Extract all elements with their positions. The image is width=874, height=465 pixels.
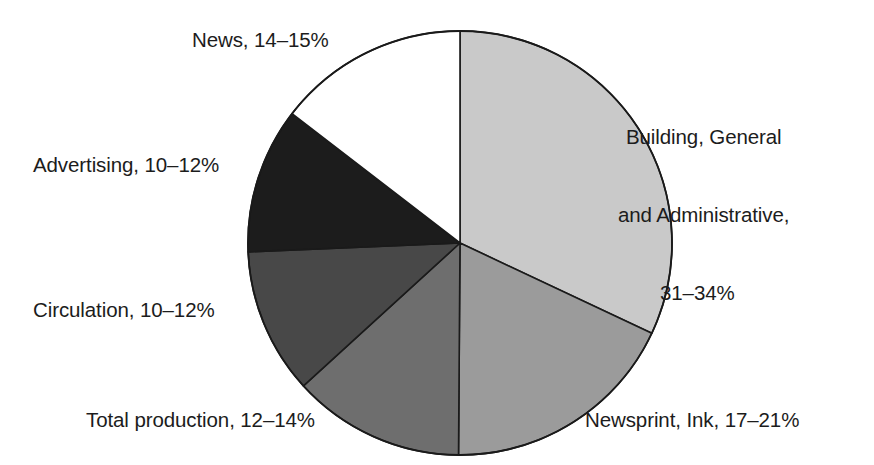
pie-label-newsprint-ink: Newsprint, Ink, 17–21% xyxy=(585,407,799,433)
pie-label-news: News, 14–15% xyxy=(192,27,329,53)
pie-chart-figure: News, 14–15% Building, General and Admin… xyxy=(0,0,874,465)
pie-label-building-general-administrative: Building, General and Administrative, 31… xyxy=(618,72,789,358)
pie-slice-group xyxy=(248,31,672,455)
pie-label-building-line1: Building, General xyxy=(626,124,789,150)
pie-label-advertising: Advertising, 10–12% xyxy=(33,152,219,178)
pie-label-circulation: Circulation, 10–12% xyxy=(33,297,215,323)
pie-label-building-line2: and Administrative, xyxy=(618,202,789,228)
pie-label-total-production: Total production, 12–14% xyxy=(86,407,315,433)
pie-label-building-line3: 31–34% xyxy=(660,280,789,306)
